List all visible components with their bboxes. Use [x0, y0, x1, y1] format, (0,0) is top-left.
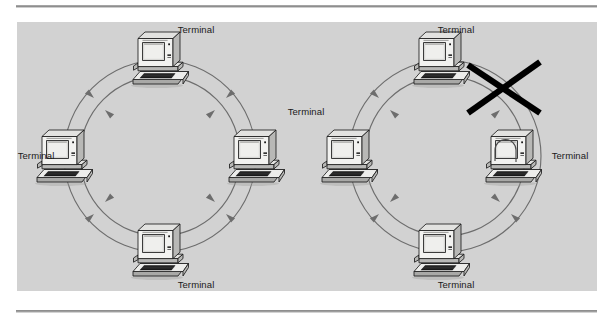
right-terminal-top[interactable]	[412, 32, 470, 88]
right-terminal-top-label: Terminal	[438, 24, 475, 35]
right-terminal-left[interactable]	[320, 130, 378, 186]
left-terminal-bottom-label: Terminal	[178, 279, 215, 290]
right-terminal-bottom-label: Terminal	[438, 279, 475, 290]
top-rule-shadow	[16, 7, 597, 8]
left-terminal-left-label: Terminal	[18, 150, 55, 161]
right-terminal-bottom[interactable]	[412, 224, 470, 280]
left-terminal-right-label: Terminal	[288, 106, 325, 117]
left-terminal-right[interactable]	[227, 130, 285, 186]
bottom-rule	[16, 310, 597, 312]
right-terminal-right-label: Terminal	[552, 150, 589, 161]
figure-root: Terminal Terminal Terminal Terminal	[0, 0, 613, 319]
right-terminal-right[interactable]	[484, 130, 542, 186]
left-terminal-top[interactable]	[131, 32, 189, 88]
left-terminal-bottom[interactable]	[131, 224, 189, 280]
left-terminal-top-label: Terminal	[178, 24, 215, 35]
bottom-rule-shadow	[16, 312, 597, 313]
ring-network-figure: Terminal Terminal Terminal Terminal	[0, 0, 613, 319]
top-rule	[16, 5, 597, 7]
